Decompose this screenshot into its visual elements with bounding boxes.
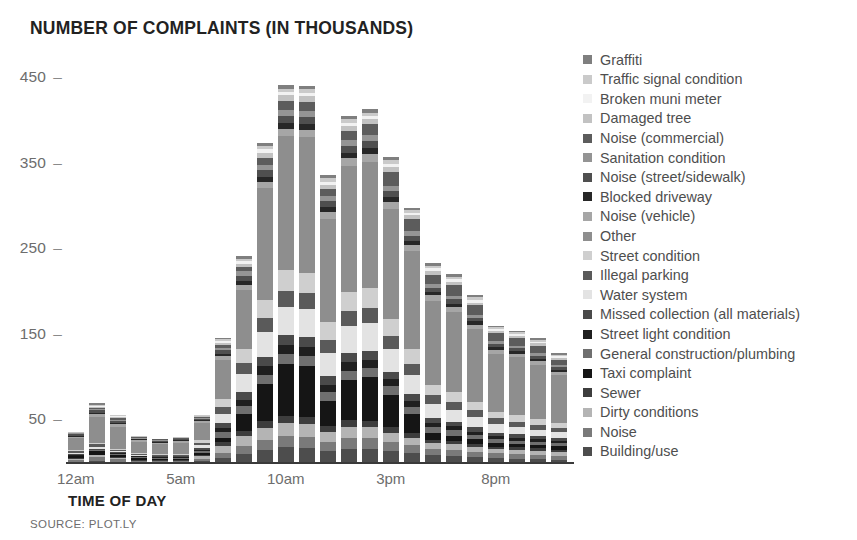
bar-10am[interactable] <box>278 85 294 464</box>
bar-segment[interactable] <box>404 349 420 363</box>
bar-6pm[interactable] <box>446 274 462 464</box>
bar-segment[interactable] <box>551 375 567 423</box>
bar-12pm[interactable] <box>320 175 336 464</box>
bar-segment[interactable] <box>299 130 315 137</box>
bar-segment[interactable] <box>257 188 273 299</box>
bar-segment[interactable] <box>488 333 504 341</box>
bar-segment[interactable] <box>236 349 252 362</box>
bar-6am[interactable] <box>194 415 210 464</box>
bar-segment[interactable] <box>362 154 378 161</box>
bar-segment[interactable] <box>383 372 399 379</box>
bar-segment[interactable] <box>278 101 294 110</box>
bar-segment[interactable] <box>257 318 273 332</box>
bar-segment[interactable] <box>278 345 294 354</box>
legend-item[interactable]: Street light condition <box>583 324 853 344</box>
bar-segment[interactable] <box>425 404 441 418</box>
bar-segment[interactable] <box>467 417 483 427</box>
bar-segment[interactable] <box>404 445 420 453</box>
bar-segment[interactable] <box>488 412 504 419</box>
bar-segment[interactable] <box>446 392 462 401</box>
bar-segment[interactable] <box>341 146 357 153</box>
bar-segment[interactable] <box>257 375 273 384</box>
bar-segment[interactable] <box>194 423 210 440</box>
bar-segment[interactable] <box>299 347 315 356</box>
bar-9am[interactable] <box>257 142 273 464</box>
bar-segment[interactable] <box>236 446 252 454</box>
bar-11am[interactable] <box>299 86 315 464</box>
legend-item[interactable]: Blocked driveway <box>583 187 853 207</box>
legend-item[interactable]: Damaged tree <box>583 109 853 129</box>
bar-segment[interactable] <box>299 293 315 309</box>
bar-segment[interactable] <box>404 364 420 375</box>
bar-segment[interactable] <box>341 427 357 438</box>
bar-segment[interactable] <box>383 209 399 319</box>
bar-segment[interactable] <box>236 436 252 446</box>
bar-segment[interactable] <box>509 357 525 415</box>
bar-segment[interactable] <box>173 443 189 454</box>
bar-segment[interactable] <box>278 307 294 335</box>
bar-segment[interactable] <box>362 438 378 449</box>
bar-segment[interactable] <box>257 357 273 366</box>
bar-segment[interactable] <box>362 427 378 438</box>
legend-item[interactable]: Noise (vehicle) <box>583 207 853 227</box>
legend-item[interactable]: Noise (commercial) <box>583 128 853 148</box>
bar-segment[interactable] <box>362 323 378 350</box>
bar-segment[interactable] <box>341 380 357 420</box>
bar-4pm[interactable] <box>404 207 420 464</box>
legend-item[interactable]: Noise (street/sidewalk) <box>583 168 853 188</box>
legend-item[interactable]: Building/use <box>583 442 853 462</box>
legend-item[interactable]: General construction/plumbing <box>583 344 853 364</box>
bar-segment[interactable] <box>68 438 84 450</box>
bar-segment[interactable] <box>257 170 273 177</box>
bar-segment[interactable] <box>509 415 525 422</box>
bar-segment[interactable] <box>467 329 483 402</box>
bar-segment[interactable] <box>530 346 546 353</box>
bar-segment[interactable] <box>488 354 504 412</box>
bar-segment[interactable] <box>509 338 525 345</box>
bar-segment[interactable] <box>362 124 378 135</box>
bar-segment[interactable] <box>425 301 441 385</box>
bar-segment[interactable] <box>404 407 420 414</box>
bar-segment[interactable] <box>299 102 315 111</box>
bar-segment[interactable] <box>341 131 357 140</box>
bar-segment[interactable] <box>278 270 294 291</box>
bar-segment[interactable] <box>320 442 336 451</box>
bar-segment[interactable] <box>425 433 441 440</box>
legend-item[interactable]: Graffiti <box>583 50 853 70</box>
bar-segment[interactable] <box>404 375 420 395</box>
bar-segment[interactable] <box>446 312 462 392</box>
bar-segment[interactable] <box>236 363 252 374</box>
legend-item[interactable]: Street condition <box>583 246 853 266</box>
bar-7am[interactable] <box>215 337 231 464</box>
bar-segment[interactable] <box>299 366 315 417</box>
bar-segment[interactable] <box>299 437 315 449</box>
bar-segment[interactable] <box>383 336 399 349</box>
bar-segment[interactable] <box>299 117 315 124</box>
bar-2am[interactable] <box>110 414 126 464</box>
legend-item[interactable]: Broken muni meter <box>583 89 853 109</box>
bar-segment[interactable] <box>278 364 294 416</box>
bar-segment[interactable] <box>299 273 315 294</box>
bar-segment[interactable] <box>341 420 357 427</box>
bar-segment[interactable] <box>215 399 231 407</box>
bar-segment[interactable] <box>446 402 462 410</box>
bar-segment[interactable] <box>215 446 231 453</box>
bar-segment[interactable] <box>236 392 252 400</box>
bar-12am[interactable] <box>68 432 84 465</box>
bar-segment[interactable] <box>383 442 399 451</box>
bar-segment[interactable] <box>362 368 378 377</box>
bar-1pm[interactable] <box>341 116 357 464</box>
bar-segment[interactable] <box>404 438 420 446</box>
bar-segment[interactable] <box>278 416 294 423</box>
bar-segment[interactable] <box>446 285 462 295</box>
bar-8am[interactable] <box>236 256 252 464</box>
bar-segment[interactable] <box>404 251 420 350</box>
bar-segment[interactable] <box>341 362 357 370</box>
bar-segment[interactable] <box>404 219 420 231</box>
bar-segment[interactable] <box>257 440 273 450</box>
bar-3am[interactable] <box>131 436 147 464</box>
bar-segment[interactable] <box>341 326 357 353</box>
bar-segment[interactable] <box>341 158 357 166</box>
bar-segment[interactable] <box>341 292 357 311</box>
bar-11pm[interactable] <box>551 353 567 464</box>
